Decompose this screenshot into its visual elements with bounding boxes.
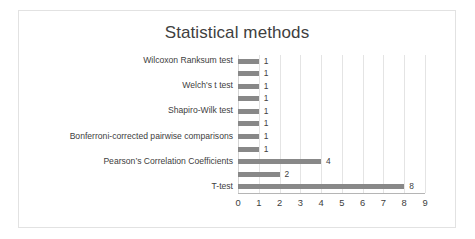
x-tick-label: 4	[319, 198, 324, 207]
bar-value-label: 1	[264, 69, 269, 77]
bar-value-label: 1	[264, 132, 269, 140]
bar-row: Bonferroni-corrected pairwise comparison…	[19, 130, 457, 143]
x-tick-label: 7	[381, 198, 386, 207]
bar-rows: Wilcoxon Ranksum test11Welch's t test11S…	[19, 55, 457, 193]
chart-title: Statistical methods	[19, 23, 455, 43]
bar-value-label: 1	[264, 82, 269, 90]
bar	[238, 109, 259, 114]
bar	[238, 159, 321, 164]
x-axis-line	[238, 193, 425, 194]
bar-value-label: 2	[285, 170, 290, 178]
bar	[238, 96, 259, 101]
bar	[238, 134, 259, 139]
bar-value-label: 1	[264, 94, 269, 102]
bar-row: Welch's t test1	[19, 80, 457, 93]
x-tick-label: 9	[422, 198, 427, 207]
category-label: Welch's t test	[17, 81, 233, 90]
bar-value-label: 8	[409, 182, 414, 190]
bar-value-label: 1	[264, 119, 269, 127]
bar-row: Shapiro-Wilk test1	[19, 105, 457, 118]
bar-row: 1	[19, 143, 457, 156]
bar	[238, 71, 259, 76]
category-label: Pearson’s Correlation Coefficients	[17, 157, 233, 166]
bar	[238, 184, 404, 189]
x-tick-label: 1	[256, 198, 261, 207]
bar	[238, 172, 280, 177]
bar-row: Wilcoxon Ranksum test1	[19, 55, 457, 68]
chart-frame: Statistical methods Wilcoxon Ranksum tes…	[18, 10, 456, 228]
bar-row: 1	[19, 68, 457, 81]
category-label: Wilcoxon Ranksum test	[17, 56, 233, 65]
bar-row: Pearson’s Correlation Coefficients4	[19, 155, 457, 168]
x-tick-label: 2	[277, 198, 282, 207]
x-tick-label: 5	[339, 198, 344, 207]
bar-value-label: 4	[326, 157, 331, 165]
bar-row: 1	[19, 118, 457, 131]
bar-value-label: 1	[264, 57, 269, 65]
bar-row: 1	[19, 93, 457, 106]
bar-value-label: 1	[264, 145, 269, 153]
bar	[238, 121, 259, 126]
category-label: Shapiro-Wilk test	[17, 106, 233, 115]
category-label: Bonferroni-corrected pairwise comparison…	[17, 132, 233, 141]
bar	[238, 147, 259, 152]
x-tick-label: 8	[402, 198, 407, 207]
x-axis-ticks: 0123456789	[238, 198, 425, 214]
bar	[238, 84, 259, 89]
x-tick-label: 6	[360, 198, 365, 207]
x-tick-label: 3	[298, 198, 303, 207]
bar	[238, 59, 259, 64]
bar-value-label: 1	[264, 107, 269, 115]
x-tick-label: 0	[235, 198, 240, 207]
category-label: T-test	[17, 182, 233, 191]
bar-row: 2	[19, 168, 457, 181]
bar-row: T-test8	[19, 180, 457, 193]
plot-area: Wilcoxon Ranksum test11Welch's t test11S…	[19, 55, 457, 200]
